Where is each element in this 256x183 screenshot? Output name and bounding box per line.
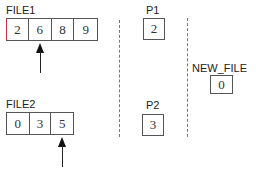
arrow-shaft <box>40 51 41 73</box>
p2-value: 3 <box>143 115 163 135</box>
file1-cell: 8 <box>52 19 75 40</box>
file1-cell: 6 <box>29 19 52 40</box>
p1-box: 2 <box>143 18 165 40</box>
file1-cell: 2 <box>6 19 29 40</box>
p2-box: 3 <box>142 114 164 136</box>
separator-dashed-line-2 <box>187 18 188 137</box>
file2-cell: 0 <box>7 113 30 134</box>
file2-label: FILE2 <box>6 98 35 110</box>
p1-label: P1 <box>146 4 159 16</box>
arrow-shaft <box>62 145 63 167</box>
separator-dashed-line-1 <box>119 20 120 137</box>
p1-value: 2 <box>144 19 164 39</box>
file1-label: FILE1 <box>6 4 35 16</box>
file1-array: 2 6 8 9 <box>6 18 98 41</box>
new-file-label: NEW_FILE <box>192 62 247 74</box>
file1-cell: 9 <box>74 19 97 40</box>
new-file-array: 0 <box>210 75 233 94</box>
file2-array: 0 3 5 <box>6 112 74 135</box>
file2-cell: 5 <box>51 113 73 134</box>
p2-label: P2 <box>146 99 159 111</box>
file2-cell: 3 <box>30 113 52 134</box>
new-file-cell: 0 <box>211 76 232 93</box>
